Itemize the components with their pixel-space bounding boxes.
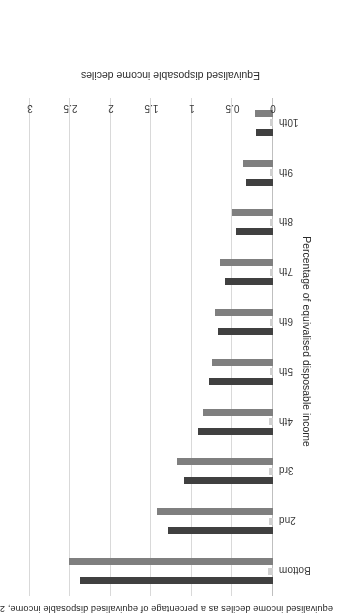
gridline-1-5 xyxy=(151,98,152,596)
x-tick-label-2: 2 xyxy=(108,103,114,114)
gridline-2 xyxy=(110,98,111,596)
x-tick-label-0: 0 xyxy=(270,103,276,114)
bar-4th-series-medium xyxy=(203,409,273,416)
bar-6th-series-dark xyxy=(218,328,273,335)
x-tick-label-0-5: 0.5 xyxy=(226,103,240,114)
x-tick-label-1-5: 1.5 xyxy=(145,103,159,114)
bar-bottom-series-dark xyxy=(80,577,273,584)
bar-8th-series-dark xyxy=(236,229,273,236)
category-label-10th: 10th xyxy=(279,117,339,128)
bar-5th-series-medium xyxy=(212,359,273,366)
bar-5th-series-dark xyxy=(209,378,273,385)
x-axis-title: Equivalised disposable income deciles xyxy=(0,70,341,82)
bar-bottom-series-medium xyxy=(69,558,273,565)
bar-5th-series-light xyxy=(270,368,273,375)
bar-2nd-series-dark xyxy=(168,527,273,534)
bar-10th-series-light xyxy=(270,119,273,126)
y-axis-title: Percentage of equivalised disposable inc… xyxy=(301,142,314,542)
bar-6th-series-medium xyxy=(215,309,273,316)
plot-background xyxy=(30,98,273,596)
bar-chart-figure: equivalised income deciles as a percenta… xyxy=(0,0,341,616)
bar-10th-series-dark xyxy=(256,129,273,136)
rotated-figure-wrapper: equivalised income deciles as a percenta… xyxy=(0,0,341,616)
plot-area xyxy=(30,98,273,596)
bar-2nd-series-medium xyxy=(157,508,273,515)
x-tick-label-3: 3 xyxy=(27,103,33,114)
bar-7th-series-dark xyxy=(225,278,273,285)
x-tick-label-2-5: 2.5 xyxy=(64,103,78,114)
bar-bottom-series-light xyxy=(268,568,273,575)
bar-3rd-series-medium xyxy=(177,459,273,466)
bar-4th-series-dark xyxy=(198,428,273,435)
bar-2nd-series-light xyxy=(269,518,273,525)
bar-3rd-series-dark xyxy=(184,478,273,485)
gridline-3 xyxy=(29,98,30,596)
category-label-bottom: Bottom xyxy=(279,566,339,577)
bar-7th-series-medium xyxy=(220,259,273,266)
bar-9th-series-light xyxy=(270,169,273,176)
bar-7th-series-light xyxy=(270,269,273,276)
bar-9th-series-dark xyxy=(246,179,273,186)
bar-4th-series-light xyxy=(269,418,273,425)
bar-3rd-series-light xyxy=(269,468,273,475)
gridline-0-5 xyxy=(232,98,233,596)
chart-title: equivalised income deciles as a percenta… xyxy=(0,603,333,614)
bar-9th-series-medium xyxy=(243,160,273,167)
gridline-2-5 xyxy=(70,98,71,596)
bar-6th-series-light xyxy=(270,319,273,326)
bar-8th-series-light xyxy=(270,219,273,226)
bar-8th-series-medium xyxy=(233,210,274,217)
gridline-1 xyxy=(191,98,192,596)
x-tick-label-1: 1 xyxy=(189,103,195,114)
